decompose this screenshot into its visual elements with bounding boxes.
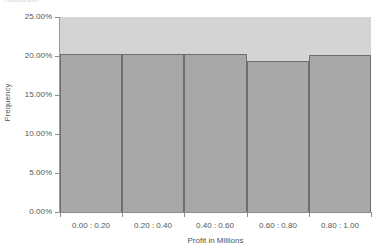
x-tick-label: 0.40 : 0.60 bbox=[184, 221, 246, 230]
x-tick-label: 0.00 : 0.20 bbox=[60, 221, 122, 230]
x-tick bbox=[309, 212, 310, 217]
x-tick bbox=[122, 212, 123, 217]
x-axis-title: Profit in Millions bbox=[60, 236, 371, 245]
bar-3 bbox=[184, 54, 247, 212]
y-tick bbox=[55, 56, 60, 57]
x-tick bbox=[60, 212, 61, 217]
y-tick bbox=[55, 134, 60, 135]
y-tick-label: 15.00% bbox=[4, 91, 52, 99]
y-tick-label: 10.00% bbox=[4, 130, 52, 138]
y-axis-line bbox=[59, 17, 60, 213]
x-tick bbox=[371, 212, 372, 217]
y-tick-label: 0.00% bbox=[4, 208, 52, 216]
x-tick-label: 0.80 : 1.00 bbox=[309, 221, 371, 230]
y-tick-label: 20.00% bbox=[4, 52, 52, 60]
bar-2 bbox=[122, 54, 184, 212]
y-tick bbox=[55, 17, 60, 18]
y-tick-label: 5.00% bbox=[4, 169, 52, 177]
x-axis-line bbox=[55, 212, 372, 213]
bar-1 bbox=[60, 54, 122, 212]
bar-4 bbox=[247, 61, 309, 212]
histogram-chart: Histogram Frequency 0.00%5.00%10.00%15.0… bbox=[0, 0, 376, 250]
x-tick bbox=[247, 212, 248, 217]
x-tick-label: 0.20 : 0.40 bbox=[122, 221, 184, 230]
x-tick bbox=[184, 212, 185, 217]
chart-title: Histogram bbox=[4, 0, 38, 2]
y-axis-title: Frequency bbox=[3, 73, 12, 133]
bar-5 bbox=[309, 55, 371, 212]
x-tick-label: 0.60 : 0.80 bbox=[247, 221, 309, 230]
y-tick bbox=[55, 95, 60, 96]
y-tick bbox=[55, 173, 60, 174]
y-tick-label: 25.00% bbox=[4, 13, 52, 21]
plot-area bbox=[60, 17, 371, 212]
